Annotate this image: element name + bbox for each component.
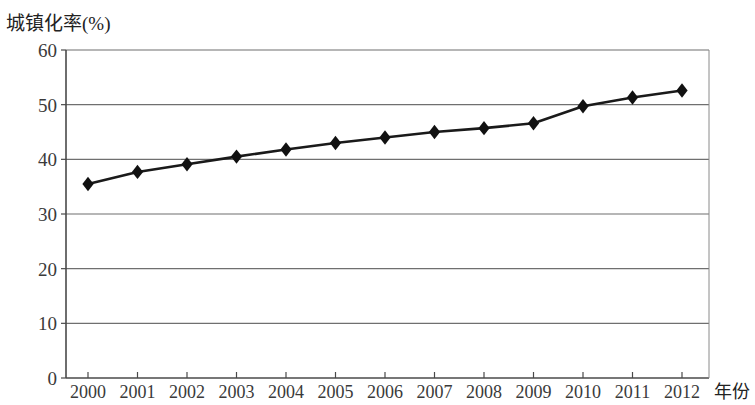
x-tick-label: 2004 — [268, 382, 304, 402]
x-tick-marks — [88, 372, 682, 378]
y-tick-label: 40 — [38, 149, 57, 170]
x-tick-labels: 2000200120022003200420052006200720082009… — [70, 382, 700, 402]
y-tick-labels: 0102030405060 — [38, 40, 66, 389]
plot-area: 0102030405060 20002001200220032004200520… — [0, 0, 755, 405]
gridlines — [66, 50, 709, 323]
data-point-marker — [627, 90, 638, 104]
x-tick-label: 2006 — [367, 382, 403, 402]
data-point-marker — [429, 125, 440, 139]
urbanization-rate-line-chart: 城镇化率(%) 年份 0102030405060 200020012002200… — [0, 0, 755, 405]
x-tick-label: 2001 — [120, 382, 156, 402]
x-tick-label: 2012 — [664, 382, 700, 402]
data-point-marker — [132, 165, 143, 179]
y-tick-label: 0 — [48, 368, 58, 389]
y-tick-label: 60 — [38, 40, 57, 61]
y-tick-label: 20 — [38, 259, 57, 280]
data-point-marker — [379, 130, 390, 144]
data-point-marker — [231, 149, 242, 163]
data-point-marker — [577, 99, 588, 113]
x-tick-label: 2000 — [70, 382, 106, 402]
x-tick-label: 2008 — [466, 382, 502, 402]
data-point-marker — [330, 136, 341, 150]
x-tick-label: 2002 — [169, 382, 205, 402]
x-tick-label: 2009 — [516, 382, 552, 402]
x-tick-label: 2003 — [219, 382, 255, 402]
data-point-marker — [82, 177, 93, 191]
y-tick-label: 10 — [38, 313, 57, 334]
data-point-marker — [676, 83, 687, 97]
x-tick-label: 2007 — [417, 382, 453, 402]
x-tick-label: 2011 — [615, 382, 650, 402]
data-point-marker — [280, 142, 291, 156]
y-tick-label: 50 — [38, 95, 57, 116]
x-tick-label: 2005 — [318, 382, 354, 402]
y-tick-label: 30 — [38, 204, 57, 225]
series-markers — [82, 83, 687, 191]
data-point-marker — [478, 121, 489, 135]
x-tick-label: 2010 — [565, 382, 601, 402]
data-point-marker — [528, 116, 539, 130]
